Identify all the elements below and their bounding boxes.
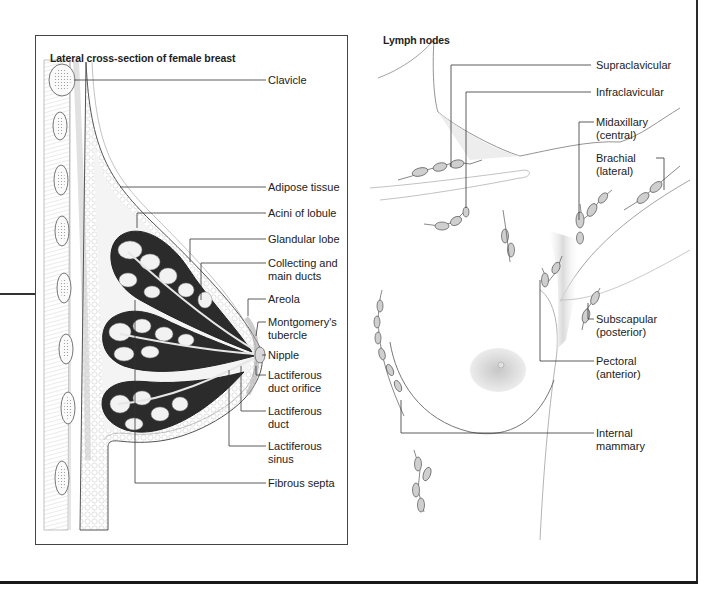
label-line: sinus [268, 453, 322, 466]
label-line: Lactiferous [268, 440, 322, 453]
label-line: (posterior) [596, 326, 657, 339]
label-infraclavicular: Infraclavicular [596, 86, 664, 99]
label-line: Lactiferous [268, 405, 322, 418]
label-internal-mammary: Internal mammary [596, 427, 645, 453]
label-nipple: Nipple [268, 349, 299, 362]
label-line: mammary [596, 440, 645, 453]
label-adipose-tissue: Adipose tissue [268, 181, 340, 194]
label-montgomerys-tubercle: Montgomery's tubercle [268, 316, 337, 342]
label-lactiferous-duct-orifice: Lactiferous duct orifice [268, 369, 322, 395]
label-supraclavicular: Supraclavicular [596, 59, 671, 72]
label-line: tubercle [268, 329, 337, 342]
label-areola: Areola [268, 293, 300, 306]
cross-section-drawing [44, 60, 265, 530]
label-subscapular: Subscapular (posterior) [596, 313, 657, 339]
label-line: (lateral) [596, 165, 636, 178]
label-fibrous-septa: Fibrous septa [268, 477, 335, 490]
cross-section-title: Lateral cross-section of female breast [50, 52, 235, 64]
label-collecting-and-main-ducts: Collecting and main ducts [268, 257, 338, 283]
label-line: duct [268, 418, 322, 431]
label-lactiferous-duct: Lactiferous duct [268, 405, 322, 431]
label-line: Internal [596, 427, 645, 440]
label-glandular-lobe: Glandular lobe [268, 233, 340, 246]
label-line: Collecting and [268, 257, 338, 270]
label-pectoral: Pectoral (anterior) [596, 355, 641, 381]
lymph-nodes-title: Lymph nodes [383, 34, 450, 46]
label-line: (central) [596, 129, 648, 142]
label-line: Lactiferous [268, 369, 322, 382]
label-line: Subscapular [596, 313, 657, 326]
label-line: Brachial [596, 152, 636, 165]
label-line: duct orifice [268, 382, 322, 395]
label-clavicle: Clavicle [268, 74, 307, 87]
label-acini-of-lobule: Acini of lobule [268, 207, 337, 220]
label-line: Montgomery's [268, 316, 337, 329]
label-line: main ducts [268, 270, 338, 283]
label-line: (anterior) [596, 368, 641, 381]
label-midaxillary: Midaxillary (central) [596, 116, 648, 142]
areola-shape [470, 348, 526, 392]
label-line: Midaxillary [596, 116, 648, 129]
label-line: Pectoral [596, 355, 641, 368]
lymph-node-drawing [370, 40, 690, 540]
label-lactiferous-sinus: Lactiferous sinus [268, 440, 322, 466]
label-brachial: Brachial (lateral) [596, 152, 636, 178]
